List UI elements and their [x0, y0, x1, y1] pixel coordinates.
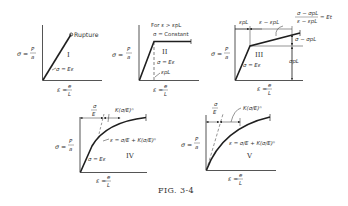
panel-v: σ E K(σ/E)ⁿ ε = σ/E + K(σ/E)ⁿ V σ = P a …: [181, 101, 276, 186]
svg-text:= Et: = Et: [320, 14, 333, 20]
dim-right-label: ε − εpL: [259, 19, 279, 26]
panel-number: IV: [126, 152, 135, 160]
svg-text:ε =: ε =: [57, 86, 68, 93]
svg-text:a: a: [225, 54, 228, 60]
svg-text:L: L: [268, 90, 271, 96]
equation-label: ε = σ/E + K(σ/E)ⁿ: [229, 140, 275, 146]
figure-caption: FIG. 3-4: [158, 186, 194, 195]
svg-text:ε − εpL: ε − εpL: [297, 18, 317, 25]
svg-text:ε =: ε =: [96, 177, 107, 184]
dim-left-label: σ E: [91, 103, 97, 117]
svg-text:ε =: ε =: [228, 175, 239, 182]
svg-text:e: e: [107, 174, 111, 180]
dim-left-label: σ E: [212, 101, 218, 115]
curve-label: σ = Eε: [88, 156, 106, 162]
panel-iv: σ E K(σ/E)ⁿ ε = σ/E + K(σ/E)ⁿ IV σ = Eε …: [55, 103, 156, 188]
x-axis-label: ε = e L: [153, 83, 168, 97]
y-axis-label: σ = P a: [112, 46, 132, 60]
svg-text:P: P: [225, 46, 229, 52]
panel-ii: For ε > εpL σ = Constant II σ = Eε εpL σ…: [112, 22, 199, 97]
svg-text:ε =: ε =: [257, 85, 268, 92]
annotation-line-1: For ε > εpL: [151, 22, 181, 29]
svg-text:L: L: [164, 91, 167, 97]
dim-left-label: εpL: [239, 19, 248, 26]
y-axis-label: σ = P a: [55, 138, 74, 152]
dim-right-label: K(σ/E)ⁿ: [243, 105, 262, 111]
panel-number: III: [255, 51, 264, 59]
y-axis-label: σ = P a: [181, 136, 200, 150]
svg-text:e: e: [68, 83, 72, 89]
annotation-line-2: σ = Constant: [153, 31, 189, 37]
curve-label: σ = Eε: [157, 59, 175, 65]
svg-text:P: P: [31, 46, 35, 52]
panel-i: Rupture I σ = Eε σ = P a ε = e L: [17, 25, 102, 97]
x-axis-label: ε = e L: [57, 83, 72, 97]
panel-number: V: [246, 152, 253, 160]
svg-text:E: E: [213, 109, 217, 115]
y-axis-label: σ = P a: [211, 46, 230, 60]
svg-text:σ =: σ =: [181, 141, 192, 148]
equation-label: ε = σ/E + K(σ/E)ⁿ: [110, 137, 156, 143]
svg-text:a: a: [195, 144, 198, 150]
stress-strain-curve: [236, 33, 301, 80]
stress-strain-curve: [81, 118, 147, 173]
svg-text:e: e: [268, 82, 272, 88]
y-axis-label: σ = P a: [17, 46, 36, 60]
upper-dim-label: σ − σpL: [295, 36, 316, 43]
svg-text:P: P: [127, 46, 131, 52]
x-axis-label: ε = e L: [257, 82, 272, 96]
svg-text:L: L: [239, 180, 242, 186]
proportional-limit-label: εpL: [161, 69, 170, 76]
x-axis-label: ε = e L: [96, 174, 111, 188]
svg-text:ε =: ε =: [153, 86, 164, 93]
svg-text:σ: σ: [214, 101, 218, 107]
svg-text:P: P: [195, 136, 199, 142]
svg-text:σ =: σ =: [55, 143, 66, 150]
svg-text:σ =: σ =: [211, 50, 222, 57]
svg-text:σ − σpL: σ − σpL: [297, 10, 318, 17]
panel-number: I: [67, 51, 70, 59]
svg-text:a: a: [31, 54, 34, 60]
stress-strain-figure: Rupture I σ = Eε σ = P a ε = e L For ε >…: [0, 0, 348, 206]
dim-right-label: K(σ/E)ⁿ: [115, 107, 134, 113]
elastic-reference-line: [207, 114, 224, 170]
panel-number: II: [162, 48, 168, 56]
svg-text:P: P: [69, 138, 73, 144]
svg-text:σ: σ: [93, 103, 97, 109]
svg-text:L: L: [107, 182, 110, 188]
tangent-modulus-formula: σ − σpL ε − εpL = Et: [295, 10, 333, 25]
svg-text:a: a: [69, 146, 72, 152]
lower-dim-label: σpL: [289, 58, 299, 65]
svg-text:σ =: σ =: [17, 50, 28, 57]
curve-label: σ = Eε: [56, 66, 74, 72]
rupture-label: Rupture: [74, 31, 99, 39]
svg-text:σ =: σ =: [112, 51, 123, 58]
x-axis-label: ε = e L: [228, 172, 243, 186]
svg-text:e: e: [164, 83, 168, 89]
svg-text:e: e: [239, 172, 243, 178]
svg-text:a: a: [127, 54, 130, 60]
curve-label: σ = Eε: [243, 62, 261, 68]
svg-text:L: L: [68, 91, 71, 97]
svg-text:E: E: [92, 111, 96, 117]
panel-iii: εpL ε − εpL σ − σpL ε − εpL = Et σ − σpL…: [211, 10, 333, 96]
